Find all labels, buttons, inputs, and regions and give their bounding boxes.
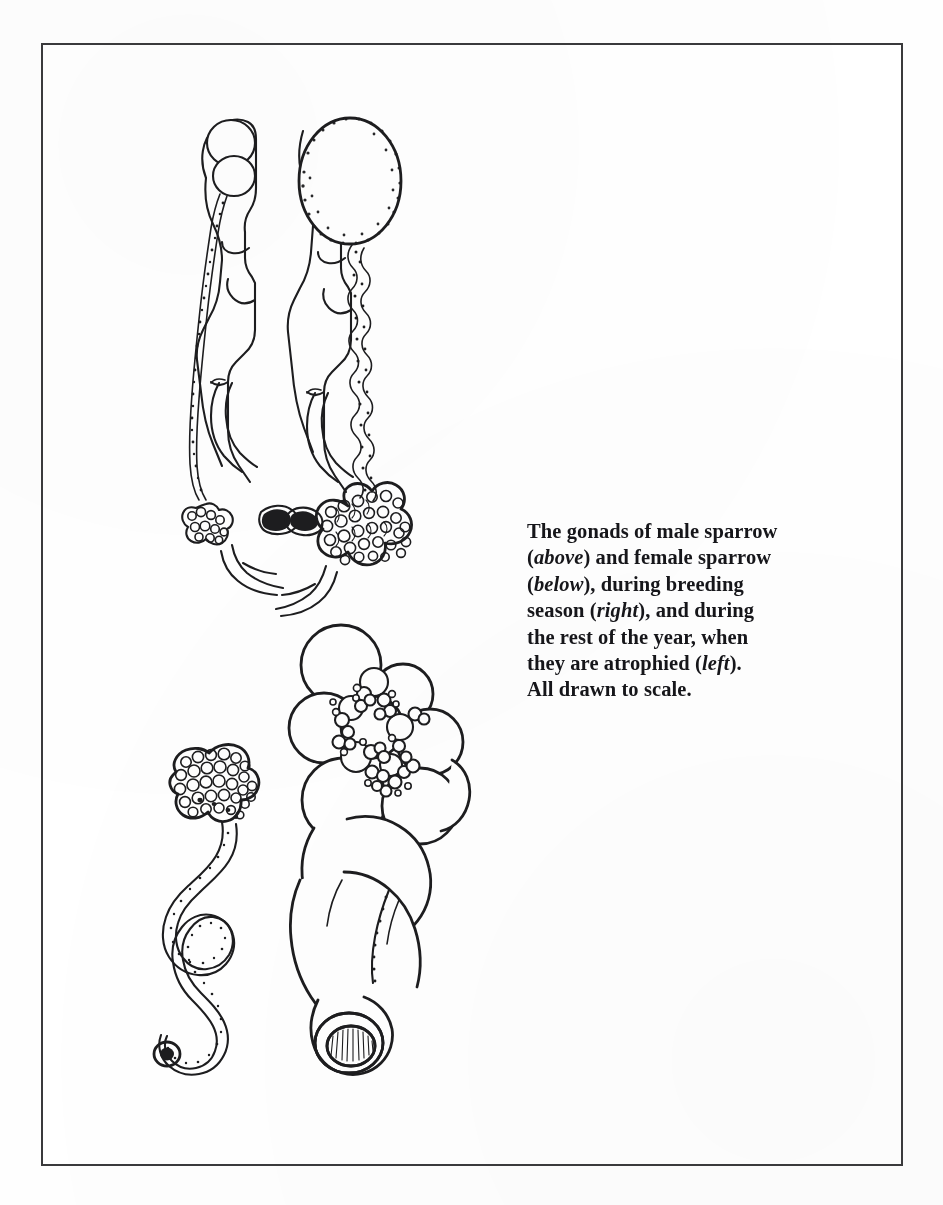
caption-line-7: All drawn to scale. <box>527 676 849 702</box>
female-breeding-panel <box>289 625 470 1075</box>
seminal-glomus-left <box>182 503 233 544</box>
adrenal-gland-right <box>286 508 323 536</box>
male-gonads-illustration <box>182 118 411 617</box>
cloacal-opening-left <box>154 1042 180 1066</box>
caption-italic-below: below <box>534 573 583 595</box>
caption-italic-above: above <box>534 546 583 568</box>
male-breeding-panel <box>276 118 412 617</box>
caption-line-2: (above) and female sparrow <box>527 544 849 570</box>
seminal-glomus-enlarged <box>316 483 411 565</box>
female-gonads-illustration <box>154 625 470 1075</box>
caption-line-4: season (right), and during <box>527 597 849 623</box>
atrophied-ovary <box>170 745 259 822</box>
figure-caption: The gonads of male sparrow (above) and f… <box>527 518 849 703</box>
figure-page: .ink { fill:none; stroke:#1d1d1f; stroke… <box>0 0 943 1205</box>
cloacal-opening-right <box>315 1013 383 1073</box>
caption-italic-left: left <box>702 652 730 674</box>
breeding-ovary-ova-cluster <box>289 625 470 844</box>
breeding-oviduct <box>290 816 430 1074</box>
female-atrophied-panel <box>154 745 259 1075</box>
caption-line-1: The gonads of male sparrow <box>527 518 849 544</box>
male-atrophied-panel <box>182 120 298 595</box>
vas-deferens-convoluted-right <box>348 245 376 501</box>
caption-line-5: the rest of the year, when <box>527 624 849 650</box>
atrophied-testis-lower <box>213 156 255 196</box>
caption-line-6: they are atrophied (left). <box>527 650 849 676</box>
caption-line-3: (below), during breeding <box>527 571 849 597</box>
caption-italic-right: right <box>597 599 639 621</box>
breeding-testis-enlarged <box>299 118 402 245</box>
atrophied-oviduct <box>154 822 237 1075</box>
